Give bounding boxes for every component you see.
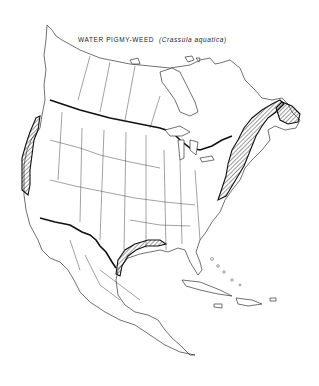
- range-map: [0, 0, 319, 386]
- bahamas: [211, 258, 242, 287]
- caribbean-islands: [182, 280, 276, 308]
- arctic-islands: [130, 56, 200, 64]
